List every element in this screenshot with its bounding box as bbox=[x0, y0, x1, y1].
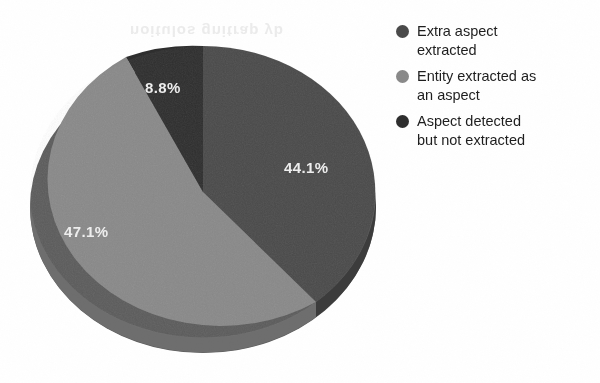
legend-swatch-icon-3 bbox=[396, 115, 409, 128]
legend-label-3-line2: but not extracted bbox=[417, 132, 525, 148]
legend-item-aspect-detected-not-extracted[interactable]: Aspect detected but not extracted bbox=[396, 112, 596, 150]
legend-swatch-icon-2 bbox=[396, 70, 409, 83]
legend-label-2: Entity extracted as an aspect bbox=[417, 67, 536, 105]
legend-item-extra-aspect-extracted[interactable]: Extra aspect extracted bbox=[396, 22, 596, 60]
legend-label-1-line1: Extra aspect bbox=[417, 23, 498, 39]
chart-legend: Extra aspect extracted Entity extracted … bbox=[396, 22, 596, 157]
pie-grain-overlay bbox=[0, 0, 392, 383]
legend-label-1: Extra aspect extracted bbox=[417, 22, 498, 60]
pie-chart-svg: 44.1% 47.1% 8.8% bbox=[0, 0, 392, 383]
legend-label-3-line1: Aspect detected bbox=[417, 113, 521, 129]
legend-item-entity-extracted-as-aspect[interactable]: Entity extracted as an aspect bbox=[396, 67, 596, 105]
chart-plot-area: 44.1% 47.1% 8.8% noitulos gnitrap yb bbox=[0, 0, 392, 383]
legend-label-1-line2: extracted bbox=[417, 42, 477, 58]
legend-label-3: Aspect detected but not extracted bbox=[417, 112, 525, 150]
legend-label-2-line2: an aspect bbox=[417, 87, 480, 103]
legend-swatch-icon-1 bbox=[396, 25, 409, 38]
legend-label-2-line1: Entity extracted as bbox=[417, 68, 536, 84]
pie-chart-figure: 44.1% 47.1% 8.8% noitulos gnitrap yb Ext… bbox=[0, 0, 600, 383]
